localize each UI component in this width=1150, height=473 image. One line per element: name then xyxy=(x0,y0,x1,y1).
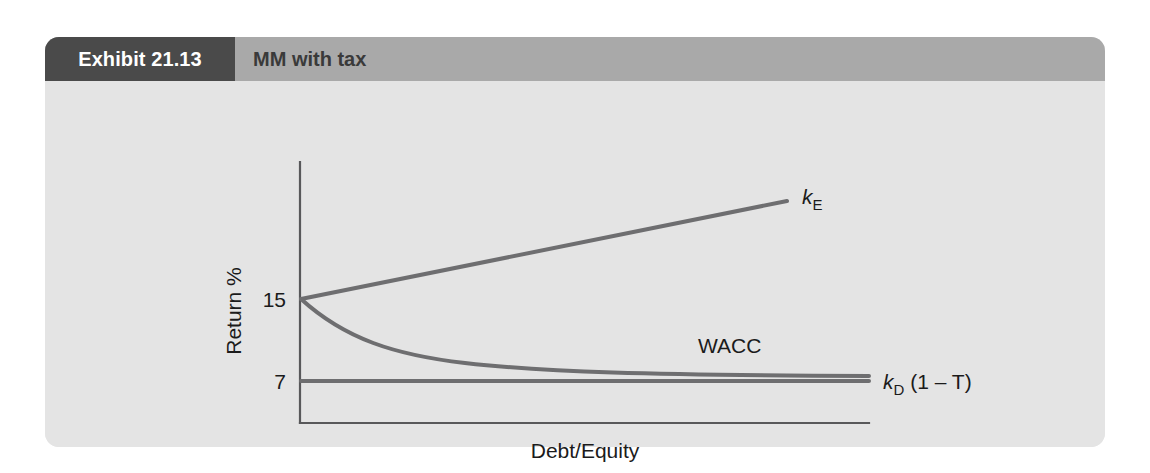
y-tick-label-15: 15 xyxy=(263,288,286,311)
exhibit-panel-body: 15 7 Return % Debt/Equity WACC kE kD (1 … xyxy=(45,81,1105,447)
exhibit-title-label: MM with tax xyxy=(253,37,366,81)
y-tick-label-7: 7 xyxy=(274,370,286,393)
y-axis-title: Return % xyxy=(222,267,245,355)
exhibit-titlebar: Exhibit 21.13 MM with tax xyxy=(45,37,1105,81)
exhibit-panel: Exhibit 21.13 MM with tax 15 xyxy=(45,37,1105,447)
series-label-kd-suffix: (1 – T) xyxy=(904,370,971,393)
exhibit-figure: Exhibit 21.13 MM with tax 15 xyxy=(0,0,1150,473)
series-label-kd: kD (1 – T) xyxy=(883,370,972,398)
series-label-wacc: WACC xyxy=(698,334,761,357)
series-label-kd-subscript: D xyxy=(894,381,905,398)
series-label-ke-subscript: E xyxy=(813,196,823,213)
series-label-ke: kE xyxy=(802,185,823,213)
chart-area: 15 7 Return % Debt/Equity WACC kE kD (1 … xyxy=(45,125,1105,473)
exhibit-tag-label: Exhibit 21.13 xyxy=(78,48,202,71)
x-axis-title: Debt/Equity xyxy=(531,439,640,462)
chart-svg: 15 7 Return % Debt/Equity WACC kE kD (1 … xyxy=(45,125,1105,473)
series-line-ke xyxy=(301,201,787,299)
exhibit-tag: Exhibit 21.13 xyxy=(45,37,235,81)
series-line-wacc xyxy=(301,299,869,376)
